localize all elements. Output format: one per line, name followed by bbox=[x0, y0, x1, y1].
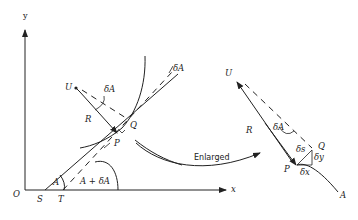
right-angle-p bbox=[119, 130, 125, 133]
right-panel: U R δA δs δy δx Q P A bbox=[225, 68, 346, 200]
right-point-q-label: Q bbox=[318, 141, 325, 151]
enlarged-connector: Enlarged bbox=[136, 143, 260, 166]
point-p-label: P bbox=[113, 138, 120, 148]
right-point-a-label: A bbox=[339, 190, 346, 200]
tick-mark bbox=[104, 143, 110, 148]
right-radius-label: R bbox=[245, 125, 253, 135]
lower-curve bbox=[135, 140, 182, 165]
enlarged-label: Enlarged bbox=[194, 153, 229, 162]
da-centre-label: δA bbox=[104, 84, 115, 94]
tangent-at-q bbox=[63, 72, 172, 190]
curvature-diagram: y x O δA A A + δA S T U R δA P Q bbox=[0, 0, 358, 220]
ds-label: δs bbox=[296, 144, 306, 154]
curve bbox=[80, 56, 145, 148]
right-point-p-label: P bbox=[283, 164, 290, 174]
y-axis-label: y bbox=[22, 11, 28, 20]
radius-r-arrow bbox=[80, 92, 117, 133]
right-radius-to-q bbox=[245, 84, 312, 148]
right-point-u-label: U bbox=[225, 68, 233, 78]
origin-label: O bbox=[13, 189, 20, 199]
point-s-label: S bbox=[37, 194, 43, 204]
angle-a-plus-da-label: A + δA bbox=[79, 176, 110, 186]
angle-a-label: A bbox=[52, 177, 59, 187]
radius-r-tail bbox=[76, 88, 80, 92]
point-u-label: U bbox=[65, 82, 73, 92]
dx-label: δx bbox=[300, 167, 310, 177]
dy-label: δy bbox=[314, 152, 324, 162]
angle-a-arc bbox=[60, 175, 65, 190]
point-q-label: Q bbox=[130, 120, 137, 130]
point-t-label: T bbox=[58, 194, 65, 204]
radius-r-label: R bbox=[84, 114, 92, 124]
da-centre-arc bbox=[95, 96, 104, 110]
x-axis-label: x bbox=[231, 184, 236, 194]
right-da-label: δA bbox=[273, 122, 284, 132]
left-panel: y x O δA A A + δA S T U R δA P Q bbox=[13, 11, 236, 204]
da-top-label: δA bbox=[173, 63, 184, 73]
